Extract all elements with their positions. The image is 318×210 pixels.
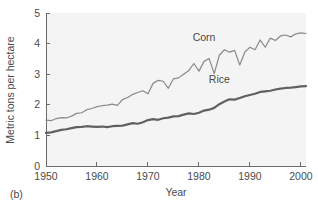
y-tick-label: 2 <box>34 98 40 110</box>
x-tick-label: 2000 <box>289 170 313 182</box>
x-axis-title: Year <box>165 186 187 198</box>
y-axis-title: Metric tons per hectare <box>4 36 16 144</box>
x-tick-label: 1970 <box>136 170 160 182</box>
series-label-rice: Rice <box>209 73 230 85</box>
y-tick-label: 1 <box>34 129 40 141</box>
x-tick-label: 1960 <box>85 170 109 182</box>
y-tick-label: 4 <box>34 37 40 49</box>
x-tick-label: 1990 <box>238 170 262 182</box>
series-label-corn: Corn <box>193 31 216 43</box>
figure-chart-crop-yields: 012345 195019601970198019902000 CornRice… <box>0 0 318 210</box>
y-tick-label: 5 <box>34 7 40 19</box>
x-tick-label: 1950 <box>34 170 58 182</box>
plot-area-background <box>46 13 306 166</box>
y-tick-label: 3 <box>34 68 40 80</box>
x-tick-label: 1980 <box>187 170 211 182</box>
panel-caption: (b) <box>10 188 23 200</box>
